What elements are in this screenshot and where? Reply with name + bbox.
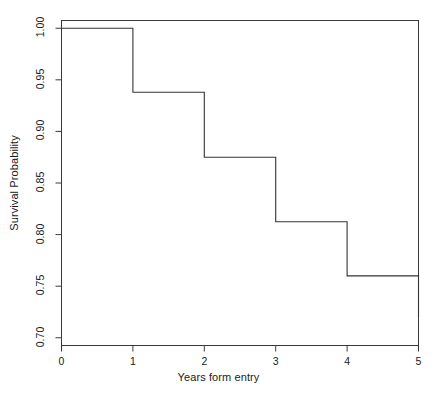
y-tick-label-3: 0.85 [30, 176, 50, 188]
y-axis-title-text: Survival Probability [8, 135, 20, 231]
plot-area [0, 0, 437, 403]
y-tick-label-6: 1.00 [30, 21, 50, 33]
x-tick-label-0: 0 [59, 355, 65, 367]
x-tick-label-2: 2 [201, 355, 207, 367]
y-tick-label-1: 0.75 [30, 279, 50, 291]
y-tick-label-0: 0.70 [30, 331, 50, 343]
y-tick-label-2: 0.80 [30, 228, 50, 240]
y-axis-ticks [56, 28, 62, 338]
x-axis-title: Years form entry [0, 371, 437, 383]
y-tick-label-5: 0.95 [30, 73, 50, 85]
x-axis-ticks [62, 346, 419, 352]
survival-step-curve [62, 28, 419, 317]
y-tick-label-4: 0.90 [30, 124, 50, 136]
kaplan-meier-chart: 0.70 0.75 0.80 0.85 0.90 0.95 1.00 0 1 2… [0, 0, 437, 403]
x-tick-label-1: 1 [130, 355, 136, 367]
x-tick-label-3: 3 [273, 355, 279, 367]
x-tick-label-4: 4 [344, 355, 350, 367]
plot-frame [62, 21, 419, 346]
x-tick-label-5: 5 [416, 355, 422, 367]
